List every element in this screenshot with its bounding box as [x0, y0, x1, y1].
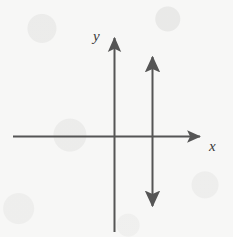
- figure-canvas: y x: [0, 0, 233, 237]
- y-axis-label: y: [93, 29, 100, 44]
- x-axis-label: x: [209, 139, 216, 154]
- coordinate-plane-graphic: [0, 0, 233, 237]
